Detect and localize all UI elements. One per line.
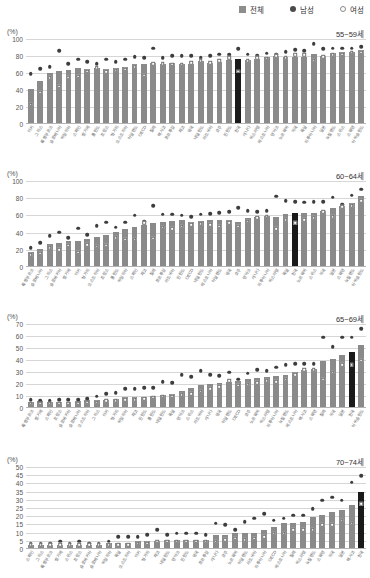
bar-total[interactable] [226,220,232,266]
bar-total[interactable] [122,67,128,123]
bar-total[interactable] [113,68,119,123]
bar-group[interactable] [104,467,114,548]
bar-group[interactable] [65,467,75,548]
bar-total[interactable] [226,382,232,407]
bar-group[interactable] [328,181,337,266]
bar-group[interactable] [243,324,252,407]
bar-group[interactable] [211,467,221,548]
bar-total[interactable] [84,69,90,123]
bar-highlight-korea[interactable] [358,492,364,548]
bar-group[interactable] [158,324,167,407]
bar-total[interactable] [122,229,128,266]
bar-group[interactable] [143,467,153,548]
bar-total[interactable] [150,63,156,123]
bar-group[interactable] [205,39,214,123]
bar-group[interactable] [102,181,111,266]
bar-total[interactable] [37,81,43,123]
bar-total[interactable] [198,221,204,266]
bar-group[interactable] [224,324,233,407]
bar-total[interactable] [160,64,166,124]
bar-total[interactable] [290,523,296,548]
bar-group[interactable] [64,181,73,266]
bar-group[interactable] [186,181,195,266]
bar-group[interactable] [298,467,308,548]
bar-group[interactable] [253,181,262,266]
bar-total[interactable] [271,527,277,548]
bar-total[interactable] [349,505,355,548]
bar-group[interactable] [230,467,240,548]
bar-group[interactable] [45,39,54,123]
bar-total[interactable] [283,57,289,123]
bar-group[interactable] [83,324,92,407]
bar-total[interactable] [358,50,364,123]
bar-group[interactable] [300,324,309,407]
bar-group[interactable] [64,324,73,407]
bar-group[interactable] [73,181,82,266]
bar-group[interactable] [172,467,182,548]
bar-group[interactable] [35,181,44,266]
bar-group[interactable] [54,181,63,266]
bar-total[interactable] [141,64,147,124]
bar-total[interactable] [254,59,260,123]
bar-total[interactable] [245,218,251,266]
bar-total[interactable] [245,60,251,123]
bar-group[interactable] [356,467,366,548]
bar-group[interactable] [337,467,347,548]
bar-group[interactable] [94,467,104,548]
bar-group[interactable] [281,181,290,266]
bar-total[interactable] [310,517,316,548]
bar-group[interactable] [347,39,356,123]
bar-group[interactable] [234,324,243,407]
bar-group[interactable] [120,39,129,123]
bar-total[interactable] [311,54,317,123]
bar-total[interactable] [188,222,194,266]
bar-group[interactable] [45,324,54,407]
bar-group[interactable] [279,467,289,548]
bar-group[interactable] [83,39,92,123]
bar-group[interactable] [111,181,120,266]
bar-total[interactable] [188,64,194,124]
bar-group[interactable] [318,467,328,548]
bar-group[interactable] [240,467,250,548]
bar-group[interactable] [201,467,211,548]
bar-group[interactable] [162,467,172,548]
bar-total[interactable] [188,388,194,407]
bar-total[interactable] [169,63,175,123]
bar-group[interactable] [259,467,269,548]
bar-group[interactable] [269,467,279,548]
bar-group[interactable] [281,39,290,123]
bar-group[interactable] [182,467,192,548]
bar-group[interactable] [250,467,260,548]
bar-group[interactable] [309,39,318,123]
bar-group[interactable] [35,39,44,123]
bar-group[interactable] [196,324,205,407]
bar-group[interactable] [177,39,186,123]
bar-total[interactable] [349,203,355,266]
bar-group[interactable] [253,324,262,407]
bar-group[interactable] [130,181,139,266]
bar-group[interactable] [337,181,346,266]
bar-total[interactable] [292,372,298,407]
bar-total[interactable] [358,345,364,407]
bar-group[interactable] [356,181,365,266]
bar-total[interactable] [226,60,232,123]
bar-total[interactable] [273,217,279,266]
bar-group[interactable] [186,39,195,123]
bar-group[interactable] [92,181,101,266]
bar-group[interactable] [120,324,129,407]
bar-group[interactable] [347,324,356,407]
bar-group[interactable] [205,324,214,407]
bar-group[interactable] [102,324,111,407]
bar-total[interactable] [273,56,279,123]
bar-group[interactable] [290,39,299,123]
bar-total[interactable] [292,57,298,123]
bar-group[interactable] [55,467,65,548]
bar-group[interactable] [73,324,82,407]
bar-group[interactable] [168,324,177,407]
bar-highlight-korea[interactable] [349,352,355,407]
bar-total[interactable] [283,214,289,266]
bar-total[interactable] [339,52,345,123]
bar-group[interactable] [262,324,271,407]
bar-group[interactable] [26,181,35,266]
bar-group[interactable] [45,181,54,266]
